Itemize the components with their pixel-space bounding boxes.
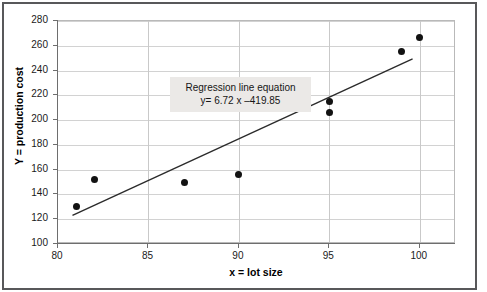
- x-tick-mark: [238, 244, 239, 248]
- gridline-horizontal: [58, 194, 454, 195]
- gridline-horizontal: [58, 170, 454, 171]
- y-tick-label: 220: [22, 89, 48, 99]
- scatter-point: [91, 176, 98, 183]
- gridline-horizontal: [58, 120, 454, 121]
- y-tick-mark: [53, 45, 57, 46]
- scatter-point: [181, 179, 188, 186]
- x-tick-label: 85: [132, 251, 162, 261]
- regression-equation-annotation: Regression line equation y= 6.72 x –419.…: [170, 77, 311, 112]
- y-tick-label: 180: [22, 139, 48, 149]
- y-tick-mark: [53, 218, 57, 219]
- y-tick-mark: [53, 119, 57, 120]
- gridline-horizontal: [58, 71, 454, 72]
- scatter-point: [326, 98, 333, 105]
- gridline-vertical: [420, 21, 421, 242]
- regression-line: [58, 21, 456, 244]
- gridline-vertical: [148, 21, 149, 242]
- y-tick-label: 280: [22, 15, 48, 25]
- y-tick-mark: [53, 169, 57, 170]
- figure-border-left: [2, 2, 4, 290]
- x-axis-line: [57, 243, 455, 244]
- x-tick-label: 100: [404, 251, 434, 261]
- figure-border-bottom: [2, 288, 477, 290]
- scatter-point: [326, 109, 333, 116]
- scatter-point: [73, 203, 80, 210]
- gridline-horizontal: [58, 145, 454, 146]
- x-tick-label: 80: [42, 251, 72, 261]
- x-tick-mark: [57, 244, 58, 248]
- y-tick-mark: [53, 193, 57, 194]
- x-axis-title: x = lot size: [57, 266, 455, 278]
- y-tick-label: 120: [22, 213, 48, 223]
- gridline-horizontal: [58, 219, 454, 220]
- gridline-horizontal: [58, 46, 454, 47]
- figure-border-right: [475, 2, 477, 290]
- chart-figure: Regression line equation y= 6.72 x –419.…: [0, 0, 487, 292]
- gridline-vertical: [329, 21, 330, 242]
- y-tick-label: 200: [22, 114, 48, 124]
- scatter-point: [235, 171, 242, 178]
- scatter-point: [416, 34, 423, 41]
- y-axis-title: Y = production cost: [13, 36, 25, 196]
- y-tick-mark: [53, 144, 57, 145]
- y-tick-mark: [53, 94, 57, 95]
- figure-border-top: [2, 2, 477, 4]
- y-tick-mark: [53, 70, 57, 71]
- x-tick-mark: [147, 244, 148, 248]
- y-axis-line: [57, 20, 58, 244]
- y-tick-label: 240: [22, 65, 48, 75]
- y-tick-label: 140: [22, 188, 48, 198]
- y-tick-label: 260: [22, 40, 48, 50]
- annotation-line-2: y= 6.72 x –419.85: [170, 94, 311, 107]
- gridline-horizontal: [58, 21, 454, 22]
- plot-area: Regression line equation y= 6.72 x –419.…: [57, 20, 455, 243]
- x-tick-mark: [328, 244, 329, 248]
- x-tick-label: 90: [223, 251, 253, 261]
- scatter-point: [398, 48, 405, 55]
- y-tick-mark: [53, 20, 57, 21]
- annotation-line-1: Regression line equation: [170, 81, 311, 94]
- x-tick-label: 95: [313, 251, 343, 261]
- y-tick-label: 100: [22, 238, 48, 248]
- gridline-vertical: [239, 21, 240, 242]
- y-tick-label: 160: [22, 164, 48, 174]
- x-tick-mark: [419, 244, 420, 248]
